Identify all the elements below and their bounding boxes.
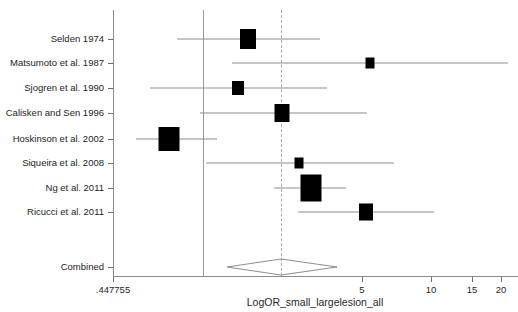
x-axis-title: LogOR_small_largelesion_all [247, 297, 384, 308]
study-label-column: Selden 1974 Matsumoto et al. 1987 Sjogre… [0, 0, 104, 312]
null-reference-line [203, 10, 204, 276]
study-label-combined: Combined [0, 262, 104, 272]
pooled-effect-line [281, 10, 282, 276]
study-label-ng-2011: Ng et al. 2011 [0, 183, 104, 193]
effect-marker-selden-1974 [240, 29, 256, 49]
x-tick-label-20: 20 [496, 285, 507, 295]
study-label-matsumoto-1987: Matsumoto et al. 1987 [0, 58, 104, 68]
x-tick-mark [431, 277, 432, 282]
effect-marker-calisken-sen-1996 [275, 104, 290, 122]
effect-marker-ricucci-2011 [359, 204, 373, 221]
study-label-siqueira-2008: Siqueira et al. 2008 [0, 158, 104, 168]
x-tick-mark [501, 277, 502, 282]
y-axis-line [113, 10, 114, 276]
forest-plot: Selden 1974 Matsumoto et al. 1987 Sjogre… [0, 0, 518, 312]
effect-marker-hoskinson-2002 [159, 127, 180, 151]
x-tick-label-min: .447755 [96, 285, 130, 295]
x-tick-label-15: 15 [467, 285, 478, 295]
study-label-ricucci-2011: Ricucci et al. 2011 [0, 207, 104, 217]
combined-effect-diamond [225, 256, 339, 278]
x-tick-label-5: 5 [359, 285, 364, 295]
effect-marker-matsumoto-1987 [366, 58, 375, 69]
study-label-hoskinson-2002: Hoskinson et al. 2002 [0, 134, 104, 144]
effect-marker-siqueira-2008 [295, 158, 304, 169]
effect-marker-sjogren-1990 [232, 81, 244, 95]
effect-marker-ng-2011 [301, 175, 322, 202]
x-tick-mark [113, 277, 114, 282]
x-tick-mark [472, 277, 473, 282]
study-label-sjogren-1990: Sjogren et al. 1990 [0, 83, 104, 93]
x-tick-mark [362, 277, 363, 282]
study-label-selden-1974: Selden 1974 [0, 34, 104, 44]
study-label-calisken-sen-1996: Calisken and Sen 1996 [0, 108, 104, 118]
x-tick-label-10: 10 [426, 285, 437, 295]
